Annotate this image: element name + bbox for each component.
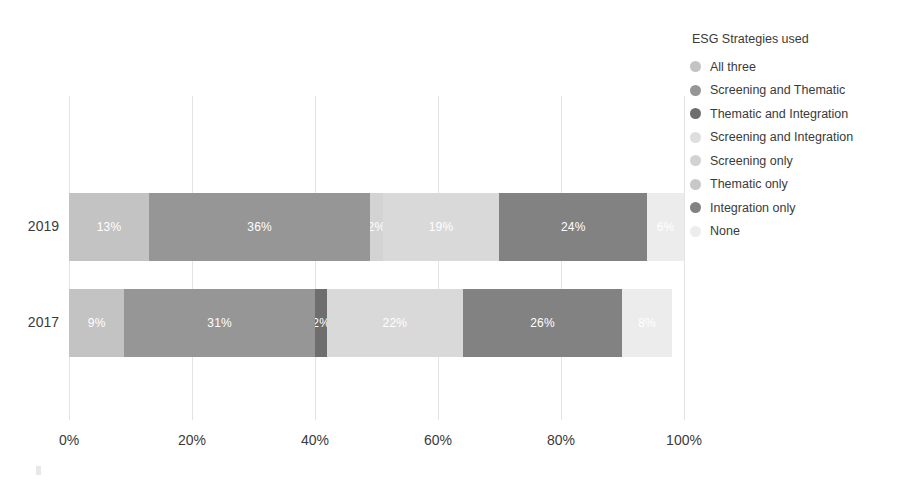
legend-item[interactable]: Screening and Integration	[690, 126, 896, 150]
legend-item-label: Thematic and Integration	[710, 107, 848, 121]
bar-segment: 36%	[149, 193, 370, 261]
legend-swatch-icon	[690, 202, 701, 213]
legend-title: ESG Strategies used	[692, 32, 896, 46]
bar-segment-label: 19%	[429, 220, 454, 234]
bar-segment: 13%	[69, 193, 149, 261]
legend-item-label: Screening and Integration	[710, 130, 853, 144]
bar-segment-label: 24%	[561, 220, 586, 234]
x-tick-80: 80%	[547, 432, 575, 448]
legend-item-label: None	[710, 224, 740, 238]
gridline-100	[684, 96, 685, 420]
legend-item[interactable]: Thematic only	[690, 173, 896, 197]
x-tick-100: 100%	[666, 432, 702, 448]
bar-segment: 9%	[69, 289, 124, 357]
bar-segment: 2%	[370, 193, 382, 261]
legend-swatch-icon	[690, 155, 701, 166]
legend-swatch-icon	[690, 132, 701, 143]
legend-swatch-icon	[690, 61, 701, 72]
scan-artifact	[36, 466, 41, 475]
legend-item-label: Thematic only	[710, 177, 788, 191]
bar-2019: 13%36%2%19%24%6%	[69, 193, 684, 261]
legend-swatch-icon	[690, 179, 701, 190]
bar-segment-label: 9%	[88, 316, 106, 330]
bar-segment-label: 2%	[370, 220, 382, 234]
legend-item[interactable]: Integration only	[690, 196, 896, 220]
bar-segment: 2%	[315, 289, 327, 357]
bar-segment-label: 36%	[247, 220, 272, 234]
legend-item-label: Screening and Thematic	[710, 83, 845, 97]
y-tick-2017: 2017	[28, 314, 59, 330]
legend-swatch-icon	[690, 85, 701, 96]
legend-item[interactable]: Screening only	[690, 149, 896, 173]
legend-items: All threeScreening and ThematicThematic …	[690, 55, 896, 243]
bar-segment-label: 13%	[97, 220, 122, 234]
legend-item-label: Integration only	[710, 201, 795, 215]
legend-item[interactable]: Thematic and Integration	[690, 102, 896, 126]
bar-segment-label: 6%	[657, 220, 675, 234]
legend-item-label: All three	[710, 60, 756, 74]
legend-swatch-icon	[690, 108, 701, 119]
plot-area: 13%36%2%19%24%6% 9%31%2%22%26%8%	[69, 96, 684, 420]
bar-segment: 26%	[463, 289, 623, 357]
bar-2017: 9%31%2%22%26%8%	[69, 289, 684, 357]
bar-segment: 19%	[383, 193, 500, 261]
bar-segment: 8%	[622, 289, 671, 357]
legend-swatch-icon	[690, 226, 701, 237]
legend-item[interactable]: All three	[690, 55, 896, 79]
x-tick-60: 60%	[424, 432, 452, 448]
legend-item[interactable]: Screening and Thematic	[690, 79, 896, 103]
legend-item[interactable]: None	[690, 220, 896, 244]
bar-segment: 22%	[327, 289, 462, 357]
bar-segment-label: 22%	[383, 316, 408, 330]
stacked-bar-chart: 13%36%2%19%24%6% 9%31%2%22%26%8% 2019 20…	[0, 0, 902, 483]
x-tick-20: 20%	[178, 432, 206, 448]
x-axis: 0%20%40%60%80%100%	[69, 432, 684, 456]
bar-segment-label: 8%	[638, 316, 656, 330]
legend: ESG Strategies used All threeScreening a…	[690, 32, 896, 243]
x-tick-40: 40%	[301, 432, 329, 448]
bar-segment: 24%	[499, 193, 647, 261]
bar-segment-label: 26%	[530, 316, 555, 330]
x-tick-0: 0%	[59, 432, 79, 448]
y-tick-2019: 2019	[28, 218, 59, 234]
legend-item-label: Screening only	[710, 154, 793, 168]
bar-segment-label: 2%	[315, 316, 327, 330]
bar-segment: 31%	[124, 289, 315, 357]
bar-segment-label: 31%	[207, 316, 232, 330]
bar-segment: 6%	[647, 193, 684, 261]
y-axis: 2019 2017	[0, 96, 69, 420]
